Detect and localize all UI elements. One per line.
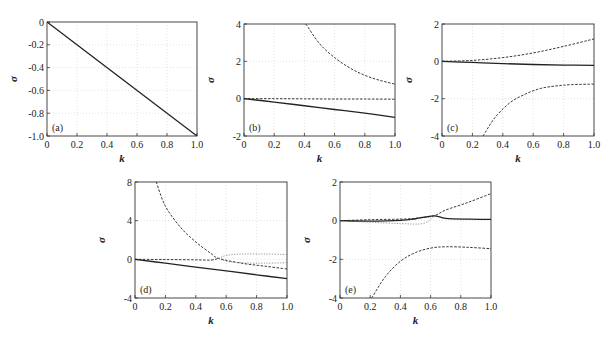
y-tick-label: -2 — [233, 131, 241, 142]
panel-label: (a) — [52, 122, 63, 134]
series-solid — [340, 216, 491, 221]
y-tick-label: -4 — [431, 131, 439, 142]
axes-frame — [442, 24, 594, 136]
series-solid — [47, 22, 197, 136]
x-tick-label: 1.0 — [281, 301, 294, 312]
x-tick-label: 0.6 — [424, 301, 437, 312]
x-tick-label: 0.6 — [527, 139, 540, 150]
x-tick-label: 0.6 — [131, 139, 144, 150]
y-tick-label: -0.2 — [28, 39, 44, 50]
subplot-a: 00.20.40.60.81.0-1.0-0.8-0.6-0.4-0.20kσ(… — [7, 17, 203, 165]
y-axis-label: σ — [7, 75, 19, 82]
x-tick-label: 0.4 — [298, 139, 311, 150]
series-dashed-upper — [306, 24, 395, 84]
y-tick-label: -4 — [124, 293, 132, 304]
x-tick-label: 0 — [440, 139, 445, 150]
x-tick-label: 0.8 — [359, 139, 372, 150]
y-tick-label: -4 — [329, 293, 337, 304]
x-tick-label: 0.2 — [364, 301, 377, 312]
series-dashed-lower — [372, 247, 491, 298]
x-tick-label: 0.4 — [497, 139, 510, 150]
x-tick-label: 0 — [242, 139, 247, 150]
x-tick-label: 0.2 — [466, 139, 479, 150]
axes-frame — [135, 182, 287, 298]
y-tick-label: 8 — [127, 177, 132, 188]
x-tick-label: 0.6 — [328, 139, 341, 150]
x-tick-label: 1.0 — [389, 139, 402, 150]
x-axis-label: k — [413, 314, 419, 326]
x-tick-label: 1.0 — [191, 139, 204, 150]
figure: 00.20.40.60.81.0-1.0-0.8-0.6-0.4-0.20kσ(… — [0, 0, 614, 338]
y-tick-label: 0 — [332, 215, 337, 226]
x-tick-label: 0.8 — [455, 301, 468, 312]
y-tick-label: -0.6 — [28, 85, 44, 96]
series-solid — [442, 61, 594, 65]
panel-label: (e) — [345, 284, 356, 296]
x-axis-label: k — [208, 314, 214, 326]
x-tick-label: 0 — [133, 301, 138, 312]
axes-frame — [340, 182, 491, 298]
y-tick-label: -0.8 — [28, 108, 44, 119]
y-axis-label: σ — [402, 76, 414, 83]
x-tick-label: 0.4 — [190, 301, 203, 312]
series-dashed-zero — [135, 258, 219, 260]
x-tick-label: 0.8 — [161, 139, 174, 150]
y-tick-label: 2 — [434, 19, 439, 30]
subplot-b: 00.20.40.60.81.0-2024kσ(b) — [204, 19, 401, 165]
y-tick-label: -2 — [431, 93, 439, 104]
y-tick-label: 2 — [236, 56, 241, 67]
x-axis-label: k — [119, 152, 125, 164]
x-tick-label: 0 — [338, 301, 343, 312]
y-tick-label: 0 — [236, 93, 241, 104]
y-tick-label: -0.4 — [28, 62, 44, 73]
x-axis-label: k — [515, 152, 521, 164]
y-tick-label: -2 — [329, 254, 337, 265]
x-tick-label: 0.2 — [159, 301, 172, 312]
x-tick-label: 0.4 — [101, 139, 114, 150]
subplot-e: 00.20.40.60.81.0-4-202kσ(e) — [300, 177, 497, 327]
y-axis-label: σ — [95, 236, 107, 243]
y-tick-label: 0 — [434, 56, 439, 67]
panel-label: (c) — [447, 122, 458, 134]
y-tick-label: 0 — [127, 254, 132, 265]
x-tick-label: 0.4 — [394, 301, 407, 312]
y-axis-label: σ — [204, 76, 216, 83]
y-tick-label: 2 — [332, 177, 337, 188]
series-dashed-lower — [483, 84, 594, 136]
y-tick-label: 4 — [127, 215, 132, 226]
series-dashed-upper — [156, 182, 287, 269]
x-tick-label: 0.2 — [71, 139, 84, 150]
y-axis-label: σ — [300, 236, 312, 243]
axes-frame — [244, 24, 395, 136]
series-dotted-branch-upper — [219, 254, 287, 258]
subplot-d: 00.20.40.60.81.0-4048kσ(d) — [95, 177, 293, 327]
series-solid — [135, 259, 287, 278]
series-dashed-upper — [340, 194, 491, 221]
x-tick-label: 0.2 — [268, 139, 281, 150]
panel-label: (d) — [140, 284, 152, 296]
subplot-c: 00.20.40.60.81.0-4-202kσ(c) — [402, 19, 600, 165]
series-dashed-upper — [442, 39, 594, 61]
x-tick-label: 1.0 — [588, 139, 601, 150]
panel-label: (b) — [249, 122, 261, 134]
series-solid — [244, 99, 395, 118]
y-tick-label: -1.0 — [28, 131, 44, 142]
x-tick-label: 0.8 — [557, 139, 570, 150]
y-tick-label: 0 — [39, 17, 44, 28]
x-axis-label: k — [317, 152, 323, 164]
x-tick-label: 0.8 — [250, 301, 263, 312]
x-tick-label: 0 — [45, 139, 50, 150]
x-tick-label: 1.0 — [485, 301, 498, 312]
x-tick-label: 0.6 — [220, 301, 233, 312]
y-tick-label: 4 — [236, 19, 241, 30]
